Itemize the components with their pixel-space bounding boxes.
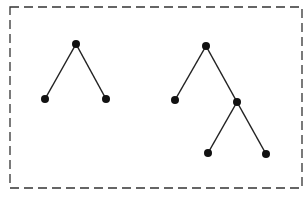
- tree-node: [72, 40, 80, 48]
- tree-node: [204, 149, 212, 157]
- tree-node: [233, 98, 241, 106]
- tree-node: [41, 95, 49, 103]
- tree-node: [202, 42, 210, 50]
- tree-1: [41, 40, 110, 103]
- tree-node: [171, 96, 179, 104]
- tree-edge: [175, 46, 206, 100]
- tree-node: [102, 95, 110, 103]
- tree-edge: [45, 44, 76, 99]
- tree-edge: [206, 46, 237, 102]
- tree-edge: [208, 102, 237, 153]
- diagram-canvas: [0, 0, 308, 198]
- tree-2: [171, 42, 270, 158]
- tree-edge: [76, 44, 106, 99]
- tree-node: [262, 150, 270, 158]
- dashed-border: [10, 7, 302, 188]
- trees-group: [41, 40, 270, 158]
- tree-edge: [237, 102, 266, 154]
